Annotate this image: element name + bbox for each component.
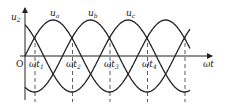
- tick-label-wt1: ωt1: [29, 59, 44, 70]
- origin-label: O: [16, 59, 23, 69]
- y-axis-label: u2: [11, 12, 21, 23]
- curve-label-ub: ub: [88, 8, 98, 19]
- tick-label-wt3: ωt3: [104, 59, 119, 70]
- three-phase-waveform-diagram: u2 O ωt ua ub uc ωt1 ωt2 ωt3 ωt4: [0, 0, 228, 107]
- tick-label-wt2: ωt2: [66, 59, 81, 70]
- tick-label-wt4: ωt4: [142, 59, 157, 70]
- curve-label-ua: ua: [50, 8, 60, 19]
- x-axis-label: ωt: [203, 59, 214, 69]
- curve-label-uc: uc: [126, 8, 136, 19]
